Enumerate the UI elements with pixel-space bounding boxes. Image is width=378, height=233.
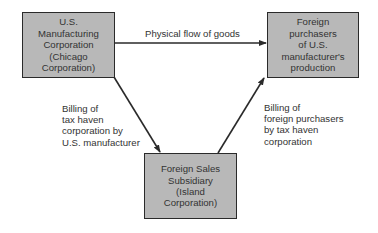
foreign-purchasers-box: Foreign purchasers of U.S. manufacturer'… <box>267 12 359 78</box>
us-manufacturer-box: U.S. Manufacturing Corporation (Chicago … <box>22 12 115 78</box>
billing-foreign-label: Billing of foreign purchasers by tax hav… <box>264 102 343 147</box>
goods-flow-label: Physical flow of goods <box>145 28 240 39</box>
us-manufacturer-label: U.S. Manufacturing Corporation (Chicago … <box>38 16 99 73</box>
billing-foreign-arrow <box>218 78 264 153</box>
foreign-purchasers-label: Foreign purchasers of U.S. manufacturer'… <box>281 16 344 73</box>
foreign-sales-subsidiary-label: Foreign Sales Subsidiary (Island Corpora… <box>161 163 220 209</box>
billing-tax-haven-label: Billing of tax haven corporation by U.S.… <box>62 103 140 148</box>
foreign-sales-subsidiary-box: Foreign Sales Subsidiary (Island Corpora… <box>144 153 237 219</box>
